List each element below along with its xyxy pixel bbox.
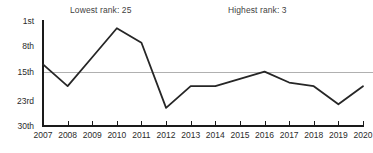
x-tick-label: 2018 (304, 130, 323, 140)
x-tick-label: 2019 (329, 130, 348, 140)
x-tick-label: 2008 (58, 130, 77, 140)
x-tick-label: 2015 (230, 130, 249, 140)
data-series-line (43, 28, 363, 108)
x-tick-label: 2016 (255, 130, 274, 140)
x-tick-label: 2011 (132, 130, 150, 140)
x-tick-label: 2014 (206, 130, 225, 140)
x-tick-label: 2010 (107, 130, 126, 140)
x-tick-label: 2009 (83, 130, 102, 140)
x-tick-label: 2013 (181, 130, 200, 140)
x-tick-label: 2020 (354, 130, 373, 140)
x-tick-label: 2012 (157, 130, 176, 140)
rank-line-chart: Lowest rank: 25 Highest rank: 3 1st8th15… (0, 0, 373, 153)
x-tick-label: 2007 (34, 130, 53, 140)
x-tick-label: 2017 (280, 130, 299, 140)
